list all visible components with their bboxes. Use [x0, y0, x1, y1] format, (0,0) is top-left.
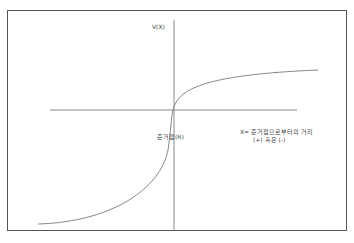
x-axis-label-line2: (+) 혹은 (-) [253, 136, 285, 143]
y-axis-label: V(X) [152, 23, 165, 30]
value-function-diagram [0, 0, 354, 243]
x-axis-label-line1: X= 준거점으로부터의 거리 [240, 128, 313, 135]
value-curve [38, 70, 318, 224]
origin-label: 준거점(R) [157, 133, 184, 140]
